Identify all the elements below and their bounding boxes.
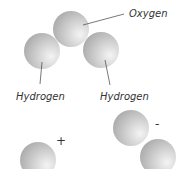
hydrogen-ion-atom [20,142,56,169]
hydroxide-oxygen-atom [113,110,149,146]
oxygen-leader-line [83,14,124,25]
hydrogen-ion: + [20,134,66,169]
oxygen-atom [53,11,89,47]
negative-charge-sign: - [155,117,159,131]
hydroxide-ion: - [113,110,176,169]
hydrogen-right-label: Hydrogen [100,91,149,102]
hydroxide-hydrogen-atom [140,139,176,169]
positive-charge-sign: + [56,134,66,148]
oxygen-label: Oxygen [129,8,168,19]
hydrogen-atom-right [83,32,119,68]
water-ionization-diagram: Oxygen Hydrogen Hydrogen + - [0,0,177,169]
hydrogen-left-label: Hydrogen [16,91,65,102]
